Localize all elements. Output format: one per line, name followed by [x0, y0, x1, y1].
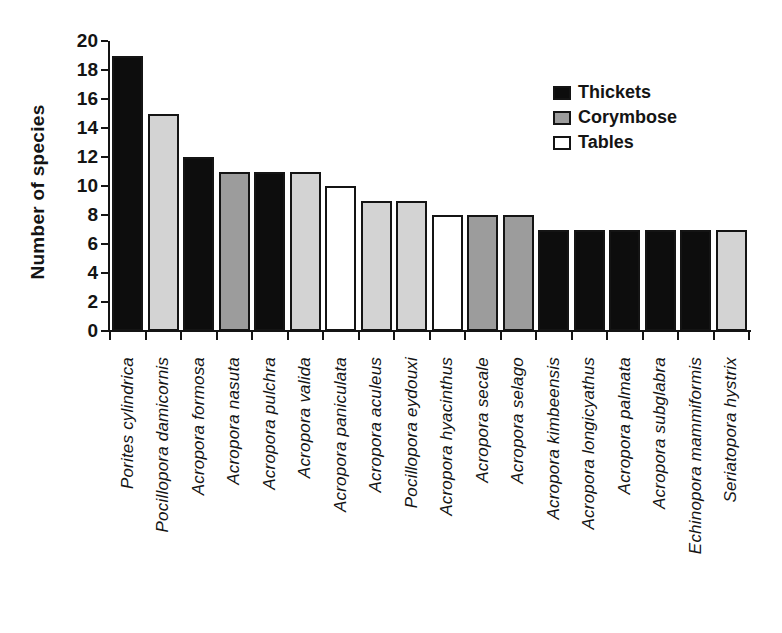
- x-tick: [322, 331, 324, 340]
- category-label: Pocillopora eydouxi: [402, 357, 422, 508]
- legend-item-tables: Tables: [553, 130, 677, 155]
- bar: [148, 114, 179, 332]
- category-label: Acropora secale: [473, 357, 493, 483]
- category-label: Acropora pulchra: [260, 357, 280, 490]
- legend-swatch-corymbose: [553, 111, 571, 125]
- y-tick-label: 10: [54, 175, 98, 197]
- y-tick-label: 20: [54, 30, 98, 52]
- category-label: Acropora subglabra: [650, 357, 670, 509]
- y-tick-label: 8: [54, 204, 98, 226]
- x-tick: [748, 331, 750, 340]
- legend: Thickets Corymbose Tables: [553, 80, 677, 155]
- legend-item-corymbose: Corymbose: [553, 105, 677, 130]
- y-tick-label: 14: [54, 117, 98, 139]
- y-tick-label: 0: [54, 320, 98, 342]
- bar: [574, 230, 605, 332]
- legend-item-thickets: Thickets: [553, 80, 677, 105]
- bar: [361, 201, 392, 332]
- x-tick: [677, 331, 679, 340]
- x-tick: [216, 331, 218, 340]
- x-tick: [535, 331, 537, 340]
- x-tick: [145, 331, 147, 340]
- x-tick: [500, 331, 502, 340]
- bar: [503, 215, 534, 331]
- x-tick: [393, 331, 395, 340]
- bar: [467, 215, 498, 331]
- y-tick: [101, 156, 108, 158]
- x-tick: [251, 331, 253, 340]
- y-tick-label: 12: [54, 146, 98, 168]
- bar: [112, 56, 143, 332]
- y-tick-label: 16: [54, 88, 98, 110]
- category-label: Acropora hyacinthus: [437, 357, 457, 516]
- x-tick: [642, 331, 644, 340]
- y-tick: [101, 214, 108, 216]
- category-label: Acropora selago: [508, 357, 528, 484]
- category-label: Acropora longicyathus: [579, 357, 599, 529]
- y-tick-label: 18: [54, 59, 98, 81]
- x-tick: [180, 331, 182, 340]
- bar: [254, 172, 285, 332]
- legend-label-tables: Tables: [578, 130, 634, 155]
- legend-swatch-tables: [553, 136, 571, 150]
- legend-label-corymbose: Corymbose: [578, 105, 677, 130]
- bar: [290, 172, 321, 332]
- y-tick-label: 4: [54, 262, 98, 284]
- category-label: Acropora valida: [295, 357, 315, 478]
- y-tick: [101, 127, 108, 129]
- bar: [680, 230, 711, 332]
- bar: [609, 230, 640, 332]
- y-tick: [101, 69, 108, 71]
- x-tick: [464, 331, 466, 340]
- species-bar-chart-figure: Number of species 02468101214161820Porit…: [0, 0, 782, 633]
- y-tick-label: 6: [54, 233, 98, 255]
- bar: [432, 215, 463, 331]
- category-label: Echinopora mammiformis: [686, 357, 706, 554]
- category-label: Acropora paniculata: [331, 357, 351, 512]
- y-tick: [101, 185, 108, 187]
- bar: [219, 172, 250, 332]
- bar: [183, 157, 214, 331]
- category-label: Acropora nasuta: [224, 357, 244, 485]
- category-label: Acropora formosa: [189, 357, 209, 495]
- bar: [325, 186, 356, 331]
- x-tick: [358, 331, 360, 340]
- category-label: Acropora kimbeensis: [544, 357, 564, 520]
- legend-swatch-thickets: [553, 86, 571, 100]
- category-label: Seriatopora hystrix: [721, 357, 741, 503]
- x-tick: [287, 331, 289, 340]
- category-label: Porites cylindrica: [118, 357, 138, 489]
- y-tick: [101, 272, 108, 274]
- y-tick: [101, 330, 108, 332]
- x-tick: [606, 331, 608, 340]
- x-tick: [429, 331, 431, 340]
- y-axis-title: Number of species: [26, 42, 50, 342]
- y-axis-line: [108, 41, 110, 332]
- legend-label-thickets: Thickets: [578, 80, 651, 105]
- x-tick: [109, 331, 111, 340]
- bar: [716, 230, 747, 332]
- bar: [396, 201, 427, 332]
- category-label: Acropora aculeus: [366, 357, 386, 493]
- category-label: Pocillopora damicornis: [153, 357, 173, 532]
- bar: [538, 230, 569, 332]
- x-tick: [571, 331, 573, 340]
- y-tick: [101, 40, 108, 42]
- y-tick: [101, 243, 108, 245]
- bar: [645, 230, 676, 332]
- y-tick: [101, 301, 108, 303]
- y-tick-label: 2: [54, 291, 98, 313]
- y-tick: [101, 98, 108, 100]
- x-tick: [713, 331, 715, 340]
- category-label: Acropora palmata: [615, 357, 635, 494]
